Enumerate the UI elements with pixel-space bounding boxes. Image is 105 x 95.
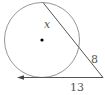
geometry-diagram: x 8 13 — [0, 0, 105, 95]
label-x: x — [44, 18, 51, 31]
secant-line — [43, 3, 103, 78]
circle-center-dot — [40, 38, 43, 41]
label-secant-external: 8 — [91, 53, 98, 66]
label-tangent: 13 — [70, 81, 84, 94]
arrow-left-icon — [17, 75, 24, 79]
